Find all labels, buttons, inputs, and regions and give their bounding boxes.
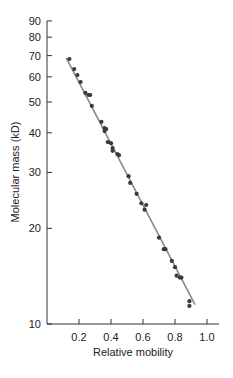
data-point [170, 259, 174, 263]
x-tick-label: 0.8 [167, 331, 182, 343]
x-tick-label: 1.0 [199, 331, 214, 343]
data-point [144, 203, 148, 207]
data-point [157, 236, 161, 240]
data-point [179, 275, 183, 279]
data-point [173, 265, 177, 269]
data-point [88, 93, 92, 97]
y-tick-label: 40 [29, 127, 41, 139]
y-tick-label: 30 [29, 166, 41, 178]
data-point [163, 247, 167, 251]
scatter-chart: 1020304050607080900.20.40.60.81.0 Relati… [0, 0, 233, 378]
data-point [104, 127, 108, 131]
data-point [109, 141, 113, 145]
y-axis-title: Molecular mass (kD) [9, 122, 21, 223]
data-point [111, 149, 115, 153]
data-points [67, 57, 191, 308]
data-point [187, 304, 191, 308]
data-point [143, 208, 147, 212]
y-tick-label: 50 [29, 96, 41, 108]
x-tick-label: 0.2 [71, 331, 86, 343]
data-point [75, 73, 79, 77]
y-tick-label: 10 [29, 318, 41, 330]
data-point [79, 80, 83, 84]
x-tick-label: 0.6 [135, 331, 150, 343]
data-point [128, 181, 132, 185]
y-tick-label: 20 [29, 222, 41, 234]
data-point [139, 201, 143, 205]
data-point [99, 120, 103, 124]
data-point [127, 174, 131, 178]
data-point [135, 192, 139, 196]
data-point [90, 104, 94, 108]
y-tick-label: 90 [29, 15, 41, 27]
y-tick-label: 70 [29, 50, 41, 62]
axes: 1020304050607080900.20.40.60.81.0 [29, 15, 219, 343]
y-tick-label: 60 [29, 71, 41, 83]
data-point [67, 57, 71, 61]
data-point [117, 153, 121, 157]
y-tick-label: 80 [29, 31, 41, 43]
data-point [187, 299, 191, 303]
x-tick-label: 0.4 [103, 331, 118, 343]
x-axis-title: Relative mobility [93, 346, 174, 358]
data-point [72, 67, 76, 71]
